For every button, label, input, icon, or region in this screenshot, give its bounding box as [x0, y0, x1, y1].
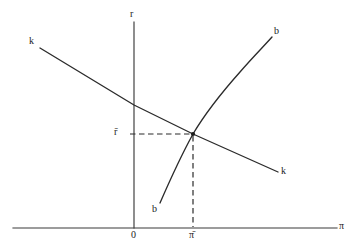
x-axis-label: π	[339, 221, 344, 231]
curve-b-start-label: b	[152, 204, 157, 214]
curve-k-end-label: k	[281, 166, 286, 176]
curve-b	[160, 37, 272, 203]
equilibrium-point-marker	[191, 132, 195, 136]
y-axis-equilibrium-tick-label: r̄	[114, 127, 117, 137]
figure-canvas: r π 0 π̄ r̄ k k b b	[0, 0, 358, 252]
x-axis-equilibrium-tick-label: π̄	[189, 230, 194, 240]
origin-label: 0	[131, 230, 136, 240]
y-axis-label: r	[130, 9, 133, 19]
diagram-svg	[0, 0, 358, 252]
curve-k	[40, 48, 278, 172]
curve-k-start-label: k	[29, 36, 34, 46]
curve-b-end-label: b	[274, 26, 279, 36]
